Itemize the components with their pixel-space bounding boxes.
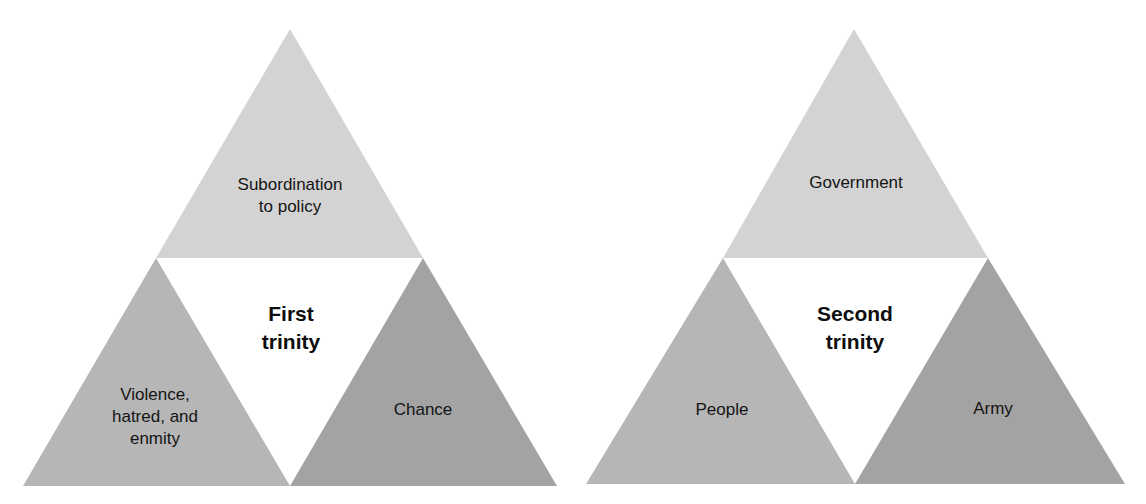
right-label-army: Army [973, 398, 1013, 420]
left-label-people: People [696, 399, 749, 421]
left-triangle-people [586, 258, 855, 484]
center-title-second-trinity: Second trinity [817, 300, 893, 356]
second-trinity-triangles [0, 0, 1146, 504]
second-trinity-diagram: Government Second trinity People Army [0, 0, 1146, 504]
top-label-government: Government [809, 172, 903, 194]
top-triangle-government [723, 29, 988, 258]
right-triangle-army [855, 258, 1125, 484]
